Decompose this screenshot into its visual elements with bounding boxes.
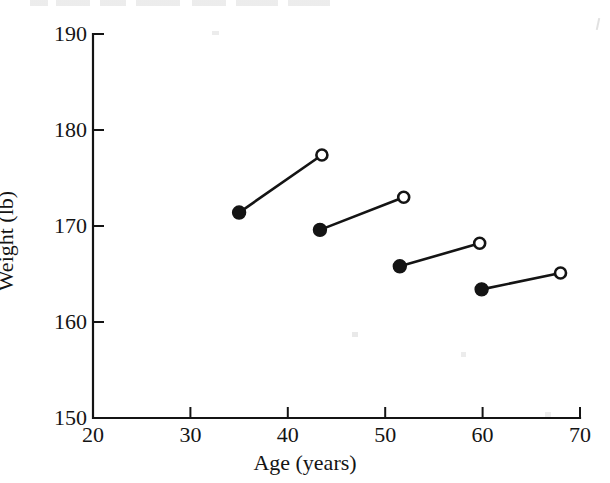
x-axis-tick-label: 40: [277, 424, 299, 446]
axes: [93, 34, 580, 418]
filled-circle-marker: [313, 223, 326, 236]
open-circle-marker: [398, 192, 409, 203]
open-circle-marker: [555, 268, 566, 279]
pair-connector: [400, 243, 480, 266]
pair-connector: [320, 197, 404, 230]
x-axis-tick-label: 20: [82, 424, 104, 446]
y-axis-tick-label: 160: [33, 311, 87, 333]
pair-connector: [239, 155, 322, 213]
open-circle-marker: [474, 238, 485, 249]
y-axis-tick-label: 180: [33, 119, 87, 141]
y-axis-title: Weight (lb): [0, 191, 19, 291]
filled-circle-marker: [233, 206, 246, 219]
x-axis-tick-label: 30: [179, 424, 201, 446]
filled-circle-marker: [393, 260, 406, 273]
x-axis-tick-label: 50: [374, 424, 396, 446]
x-axis-title: Age (years): [0, 450, 610, 476]
plot-area: [0, 0, 610, 483]
open-circle-marker: [316, 149, 327, 160]
x-axis-tick-label: 70: [569, 424, 591, 446]
data-markers: [233, 149, 566, 295]
axis-spines: [93, 34, 580, 418]
chart-figure: 150160170180190203040506070 Weight (lb) …: [0, 0, 610, 483]
pair-connector: [482, 273, 561, 289]
filled-circle-marker: [475, 283, 488, 296]
x-axis-tick-label: 60: [472, 424, 494, 446]
y-axis-tick-label: 170: [33, 215, 87, 237]
y-axis-tick-label: 150: [33, 407, 87, 429]
y-axis-tick-label: 190: [33, 23, 87, 45]
